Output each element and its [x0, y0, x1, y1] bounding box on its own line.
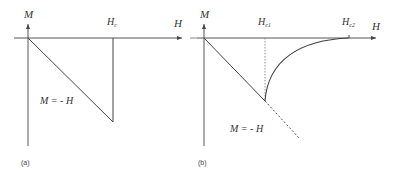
line-label: M = - H — [229, 123, 264, 134]
meissner-line — [28, 38, 113, 122]
hc-label: Hc — [106, 16, 117, 28]
meissner-line — [204, 38, 265, 101]
line-label: M = - H — [39, 95, 74, 106]
meissner-extension-dashed — [265, 101, 299, 138]
h-axis-label: H — [371, 20, 381, 32]
panel-a: M H Hc M = - H (a) — [14, 8, 183, 167]
h-axis-label: H — [173, 17, 183, 29]
magnetization-diagrams: M H Hc M = - H (a) M H Hc1 Hc2 M = - H (… — [0, 0, 394, 174]
hc1-label: Hc1 — [257, 16, 271, 28]
caption-a: (a) — [21, 159, 30, 167]
panel-b: M H Hc1 Hc2 M = - H (b) — [197, 8, 381, 167]
mixed-state-curve — [265, 38, 349, 101]
m-axis-label: M — [199, 8, 210, 20]
hc2-label: Hc2 — [341, 16, 355, 28]
caption-b: (b) — [198, 159, 207, 167]
m-axis-label: M — [23, 8, 34, 20]
